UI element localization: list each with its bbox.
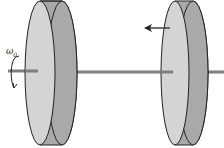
two-disk-diagram	[0, 0, 224, 148]
left-disk-face	[25, 1, 55, 145]
omega-subscript: 0	[13, 51, 17, 58]
omega-label: ω0	[6, 46, 17, 58]
right-disk	[160, 1, 208, 145]
left-disk	[25, 1, 77, 145]
